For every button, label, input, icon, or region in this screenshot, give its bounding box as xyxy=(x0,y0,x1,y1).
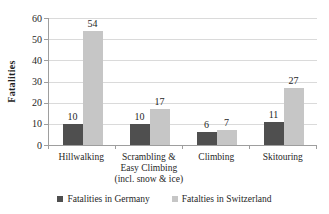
bar-value-label: 7 xyxy=(224,117,229,128)
y-tick-mark xyxy=(44,60,48,61)
legend-item-series0: Fatalities in Germany xyxy=(57,194,149,205)
bar-series0-cat3: 11 xyxy=(264,122,284,145)
y-tick-label: 40 xyxy=(0,55,42,66)
legend-item-series1: Fatalties in Switzerland xyxy=(172,194,272,205)
fatalities-bar-chart: Fatalities 10541017671127 HillwalkingScr… xyxy=(0,0,329,214)
bar-group: 67 xyxy=(183,18,250,145)
y-tick-label: 0 xyxy=(0,140,42,151)
x-tick-mark xyxy=(48,146,49,149)
bar-group: 1054 xyxy=(49,18,116,145)
x-tick-mark xyxy=(115,146,116,149)
category-label: Climbing xyxy=(183,152,249,185)
bar-value-label: 17 xyxy=(155,96,165,107)
x-tick-mark xyxy=(182,146,183,149)
y-tick-label: 20 xyxy=(0,97,42,108)
bar-series1-cat3: 27 xyxy=(284,88,304,145)
bar-series0-cat0: 10 xyxy=(63,124,83,145)
x-tick-mark xyxy=(249,146,250,149)
bar-series0-cat2: 6 xyxy=(197,132,217,145)
bar-series1-cat0: 54 xyxy=(83,31,103,145)
bar-value-label: 10 xyxy=(68,111,78,122)
bar-value-label: 11 xyxy=(269,109,279,120)
category-label: Skitouring xyxy=(250,152,316,185)
bar-series1-cat1: 17 xyxy=(150,109,170,145)
legend-label: Fatalties in Switzerland xyxy=(182,194,272,205)
y-tick-label: 60 xyxy=(0,13,42,24)
legend-swatch-icon xyxy=(172,196,178,202)
y-tick-mark xyxy=(44,103,48,104)
legend-label: Fatalities in Germany xyxy=(67,194,149,205)
y-tick-label: 50 xyxy=(0,34,42,45)
bar-value-label: 54 xyxy=(88,18,98,29)
bar-series0-cat1: 10 xyxy=(130,124,150,145)
bar-group: 1127 xyxy=(250,18,317,145)
y-tick-mark xyxy=(44,124,48,125)
bar-value-label: 27 xyxy=(289,75,299,86)
y-tick-label: 30 xyxy=(0,76,42,87)
bar-group: 1017 xyxy=(116,18,183,145)
x-axis-category-labels: HillwalkingScrambling & Easy Climbing (i… xyxy=(48,152,316,185)
bar-value-label: 6 xyxy=(204,119,209,130)
legend-swatch-icon xyxy=(57,196,63,202)
y-tick-label: 10 xyxy=(0,118,42,129)
chart-legend: Fatalities in GermanyFatalties in Switze… xyxy=(0,192,329,206)
plot-area: 10541017671127 xyxy=(48,18,317,146)
y-tick-mark xyxy=(44,39,48,40)
y-tick-mark xyxy=(44,82,48,83)
y-tick-mark xyxy=(44,18,48,19)
x-tick-mark xyxy=(316,146,317,149)
category-label: Scrambling & Easy Climbing (incl. snow &… xyxy=(114,152,183,185)
bar-value-label: 10 xyxy=(135,111,145,122)
category-label: Hillwalking xyxy=(48,152,114,185)
bar-series1-cat2: 7 xyxy=(217,130,237,145)
